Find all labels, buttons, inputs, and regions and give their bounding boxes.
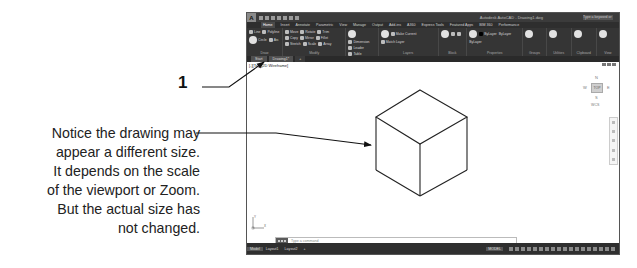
- wcs-menu[interactable]: WCS: [591, 103, 599, 107]
- workspace-icon[interactable]: [575, 247, 579, 251]
- annotation-note: Notice the drawing may appear a differen…: [0, 124, 200, 238]
- layout-tab-layout1[interactable]: Layout1: [263, 247, 282, 251]
- compass-north[interactable]: N: [595, 75, 598, 80]
- tool-mirror[interactable]: Mirror: [300, 36, 314, 40]
- new-layout-button[interactable]: +: [300, 247, 308, 251]
- tool-match-properties[interactable]: [469, 30, 477, 38]
- search-input[interactable]: Type a keyword or phrase: [583, 15, 613, 20]
- arc-icon: [269, 38, 273, 42]
- application-menu-button[interactable]: A: [247, 13, 256, 22]
- tool-move[interactable]: Move: [285, 30, 298, 34]
- snap-icon[interactable]: [515, 247, 519, 251]
- annotation-scale-icon[interactable]: [569, 247, 573, 251]
- viewport-controls[interactable]: [-][Top][2D Wireframe]: [249, 63, 288, 68]
- open-icon[interactable]: [265, 16, 269, 20]
- tool-make-current[interactable]: Make Current: [391, 30, 417, 38]
- undo-icon[interactable]: [289, 16, 293, 20]
- tool-text[interactable]: [348, 30, 356, 38]
- panel-modify: Move Rotate Trim Copy Mirror Fillet Stre…: [283, 28, 346, 56]
- redo-icon[interactable]: [295, 16, 299, 20]
- tool-dimension[interactable]: Dimension: [348, 40, 369, 44]
- rotate-icon: [300, 30, 304, 34]
- layer-properties-icon: [381, 30, 389, 38]
- customize-icon[interactable]: [281, 240, 283, 242]
- orbit-icon[interactable]: [612, 149, 615, 152]
- edit-icon: [457, 32, 461, 36]
- pan-icon[interactable]: [612, 130, 615, 133]
- customization-icon[interactable]: [611, 247, 615, 251]
- tool-arc[interactable]: Arc: [269, 36, 279, 44]
- annotation-monitor-icon[interactable]: [581, 247, 585, 251]
- tool-stretch[interactable]: Stretch: [285, 42, 301, 46]
- compass-east[interactable]: E: [607, 85, 610, 90]
- lineweight-icon[interactable]: [551, 247, 555, 251]
- linetype-dropdown[interactable]: ByLayer: [499, 30, 511, 38]
- compass-west[interactable]: W: [583, 85, 587, 90]
- isolate-objects-icon[interactable]: [593, 247, 597, 251]
- panel-block: Block: [439, 28, 468, 56]
- restore-icon[interactable]: [607, 63, 611, 66]
- ortho-icon[interactable]: [521, 247, 525, 251]
- viewcube[interactable]: N W TOP E S WCS: [583, 75, 611, 115]
- clean-screen-icon[interactable]: [605, 247, 609, 251]
- tool-circle[interactable]: Circle: [249, 36, 267, 44]
- lineweight-dropdown[interactable]: ByLayer: [469, 40, 481, 44]
- dimension-icon: [348, 40, 352, 44]
- insert-icon: [441, 30, 449, 38]
- note-line: appear a different size.: [0, 143, 200, 162]
- tool-insert[interactable]: [441, 30, 449, 38]
- viewport-window-controls: [602, 63, 616, 66]
- color-dropdown[interactable]: ByLayer: [479, 30, 496, 38]
- tool-leader[interactable]: Leader: [348, 46, 364, 50]
- grid-icon[interactable]: [509, 247, 513, 251]
- model-space-toggle[interactable]: MODEL: [486, 247, 503, 251]
- tool-layer-properties[interactable]: [381, 30, 389, 38]
- close-icon[interactable]: [612, 63, 616, 66]
- layout-tab-layout2[interactable]: Layout2: [282, 247, 301, 251]
- zoom-icon[interactable]: [612, 139, 615, 142]
- panel-utilities: Utilities: [547, 28, 572, 56]
- tool-polyline[interactable]: Polyline: [262, 30, 279, 34]
- tool-measure[interactable]: [549, 30, 557, 38]
- tool-copy[interactable]: Copy: [285, 36, 298, 40]
- selection-cycling-icon[interactable]: [563, 247, 567, 251]
- showmotion-icon[interactable]: [612, 158, 615, 161]
- save-as-icon[interactable]: [277, 16, 281, 20]
- object-snap-icon[interactable]: [545, 247, 549, 251]
- tool-scale[interactable]: Scale: [303, 42, 316, 46]
- base-view-icon: [599, 30, 607, 38]
- recent-commands-icon[interactable]: [284, 240, 286, 242]
- tool-fillet[interactable]: Fillet: [316, 36, 328, 40]
- save-icon[interactable]: [271, 16, 275, 20]
- tool-line[interactable]: Line: [249, 30, 260, 34]
- tool-rotate[interactable]: Rotate: [300, 30, 315, 34]
- ucs-icon: Y X: [251, 214, 267, 230]
- minimize-icon[interactable]: [602, 63, 606, 66]
- close-command-icon[interactable]: [278, 240, 280, 242]
- compass-south[interactable]: S: [595, 95, 598, 100]
- tool-edit[interactable]: [457, 30, 461, 38]
- polar-icon[interactable]: [527, 247, 531, 251]
- units-icon[interactable]: [587, 247, 591, 251]
- transparency-icon[interactable]: [557, 247, 561, 251]
- drawing-area[interactable]: [247, 62, 619, 233]
- window-title: Autodesk AutoCAD - Drawing1.dwg: [480, 15, 543, 20]
- layout-tab-model[interactable]: Model: [247, 247, 263, 251]
- steering-wheel-icon[interactable]: [612, 121, 615, 124]
- isodraft-icon[interactable]: [533, 247, 537, 251]
- tool-paste[interactable]: [574, 30, 582, 38]
- viewcube-top-face[interactable]: TOP: [591, 83, 603, 93]
- polyline-icon: [262, 30, 266, 34]
- tool-array[interactable]: Array: [318, 42, 331, 46]
- navigation-bar: [609, 117, 618, 165]
- stretch-icon: [285, 42, 289, 46]
- new-icon[interactable]: [259, 16, 263, 20]
- tool-match-layer[interactable]: Match Layer: [381, 40, 405, 44]
- plot-icon[interactable]: [283, 16, 287, 20]
- hardware-acceleration-icon[interactable]: [599, 247, 603, 251]
- tool-create[interactable]: [451, 30, 455, 38]
- tool-base[interactable]: [599, 30, 607, 38]
- tool-trim[interactable]: Trim: [317, 30, 329, 34]
- object-snap-tracking-icon[interactable]: [539, 247, 543, 251]
- tool-group[interactable]: [525, 30, 533, 38]
